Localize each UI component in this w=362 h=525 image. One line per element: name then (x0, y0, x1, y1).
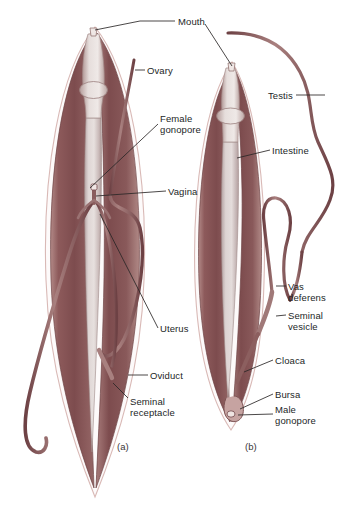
label-cloaca: Cloaca (275, 355, 305, 366)
female-pharynx (83, 34, 105, 118)
leader-mouth-b (205, 24, 232, 66)
label-seminal-receptacle: Seminal receptacle (130, 396, 175, 418)
panel-caption-b: (b) (245, 441, 257, 452)
label-male-gonopore: Male gonopore (275, 404, 316, 426)
label-ovary: Ovary (147, 65, 173, 76)
female-mouth (90, 28, 97, 36)
male-gonopore (227, 411, 235, 417)
panel-caption-a: (a) (117, 441, 129, 452)
label-female-gonopore: Female gonopore (160, 113, 201, 135)
label-vagina: Vagina (168, 186, 197, 197)
label-mouth: Mouth (178, 16, 205, 27)
label-oviduct: Oviduct (150, 370, 183, 381)
male-vas-deferens-loop (264, 198, 291, 300)
male-pharyngeal-bulb (217, 108, 245, 124)
female-gonopore (91, 184, 97, 190)
label-uterus: Uterus (160, 323, 189, 334)
male-pharynx (222, 68, 240, 142)
label-vas-deferens: Vas deferens (288, 281, 326, 303)
female-specimen (25, 27, 144, 497)
male-mouth (228, 63, 235, 71)
label-bursa: Bursa (275, 389, 300, 400)
leader-seminal-vesicle (276, 315, 286, 316)
leader-mouth-a (95, 21, 175, 30)
figure-root: MouthOvaryFemale gonoporeVaginaUterusOvi… (0, 0, 362, 525)
male-specimen (195, 33, 333, 430)
label-intestine: Intestine (272, 145, 309, 156)
female-pharyngeal-bulb (80, 82, 108, 99)
anatomy-figure (0, 0, 362, 525)
label-seminal-vesicle: Seminal vesicle (288, 310, 323, 332)
label-testis: Testis (268, 90, 293, 101)
